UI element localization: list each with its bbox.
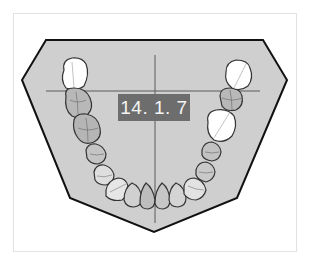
tooth-right-premolar-2[interactable] [202,142,221,161]
tooth-left-molar-3[interactable] [62,58,87,90]
dental-arch-diagram [0,0,311,264]
date-label: 14. 1. 7 [120,97,187,119]
tooth-right-molar-1-missing[interactable] [208,110,236,142]
date-label-box: 14. 1. 7 [118,94,190,121]
tooth-right-molar-2[interactable] [220,88,242,111]
tooth-right-molar-3-missing[interactable] [226,60,252,90]
tooth-right-premolar-1[interactable] [196,162,215,182]
